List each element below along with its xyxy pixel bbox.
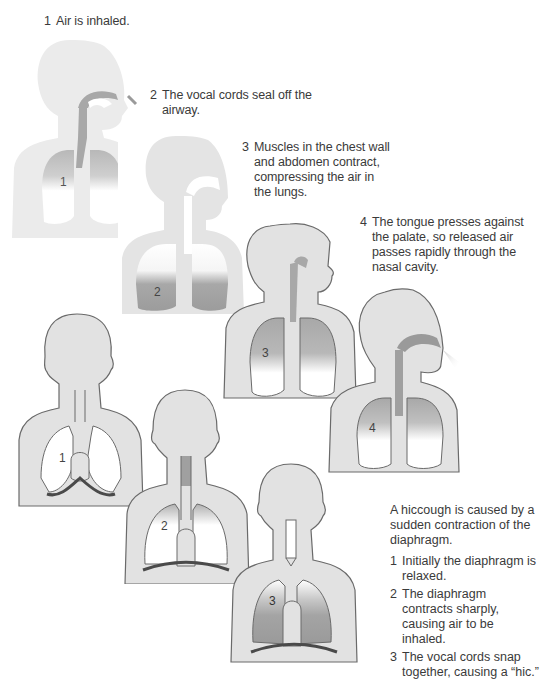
- step-number: 1: [44, 14, 51, 29]
- step-text: The vocal cords seal off the airway.: [150, 88, 325, 118]
- step-text: The tongue presses against the palate, s…: [360, 215, 532, 275]
- hiccough-step-1: 1 Initially the diaphragm is relaxed.: [390, 554, 540, 584]
- hiccough-figure-2-label: 2: [161, 519, 168, 533]
- sneeze-step-1: 1 Air is inhaled.: [44, 14, 194, 29]
- step-text: Muscles in the chest wall and abdomen co…: [242, 140, 392, 200]
- sneeze-figure-3-label: 3: [262, 346, 269, 360]
- step-text: Initially the diaphragm is relaxed.: [402, 554, 536, 583]
- hiccough-step-2: 2 The diaphragm contracts sharply, causi…: [390, 587, 540, 647]
- hiccough-intro: A hiccough is caused by a sudden contrac…: [390, 503, 540, 548]
- sneeze-step-3: 3 Muscles in the chest wall and abdomen …: [242, 140, 392, 200]
- step-number: 3: [390, 650, 397, 665]
- step-number: 2: [390, 587, 397, 602]
- step-number: 1: [390, 554, 397, 569]
- sneeze-step-2: 2 The vocal cords seal off the airway.: [150, 88, 325, 118]
- step-text: The diaphragm contracts sharply, causing…: [402, 587, 499, 646]
- step-number: 4: [360, 215, 367, 230]
- step-text: Air is inhaled.: [44, 14, 194, 29]
- sneeze-figure-1-label: 1: [60, 175, 67, 189]
- sneeze-figure-4: 4: [325, 286, 475, 476]
- sneeze-figure-4-label: 4: [369, 421, 376, 435]
- hiccough-figure-1-label: 1: [59, 451, 66, 465]
- step-number: 2: [150, 88, 157, 103]
- sneeze-step-4: 4 The tongue presses against the palate,…: [360, 215, 532, 275]
- step-text: The vocal cords snap together, causing a…: [402, 650, 539, 679]
- hiccough-figure-3: 3: [225, 460, 363, 664]
- hiccough-figure-3-label: 3: [269, 594, 276, 608]
- sneeze-figure-2-label: 2: [154, 285, 161, 299]
- step-number: 3: [242, 140, 249, 155]
- hiccough-step-3: 3 The vocal cords snap together, causing…: [390, 650, 540, 680]
- hiccough-caption: A hiccough is caused by a sudden contrac…: [390, 503, 540, 683]
